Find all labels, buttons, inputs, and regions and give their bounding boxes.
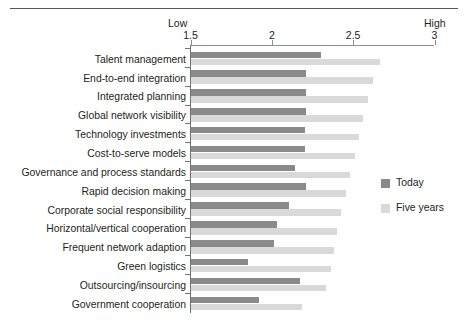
category-label: End-to-end integration — [83, 74, 186, 84]
y-tick-mark — [185, 180, 190, 181]
bar-today — [191, 52, 321, 59]
category-label: Green logistics — [117, 262, 186, 272]
bar-today — [191, 108, 306, 115]
y-tick-mark — [185, 237, 190, 238]
bar-today — [191, 146, 305, 153]
category-label: Outsourcing/insourcing — [80, 281, 186, 291]
legend-label: Today — [396, 178, 424, 188]
y-tick-mark — [185, 67, 190, 68]
bar-today — [191, 183, 306, 190]
bar-five-years — [191, 153, 355, 160]
legend-swatch-icon — [381, 179, 390, 188]
y-tick-mark — [185, 123, 190, 124]
bar-today — [191, 297, 259, 304]
bar-today — [191, 259, 248, 266]
y-tick-mark — [185, 86, 190, 87]
category-label: Talent management — [95, 55, 186, 65]
y-tick-mark — [185, 161, 190, 162]
bar-five-years — [191, 190, 346, 197]
y-axis-line — [190, 45, 191, 313]
axis-high-label: High — [424, 17, 446, 29]
y-tick-mark — [185, 199, 190, 200]
horizontal-bar-chart: Low High 1.522.53 Talent managementEnd-t… — [0, 0, 468, 325]
y-tick-mark — [185, 48, 190, 49]
x-tick-mark — [435, 40, 436, 45]
category-label: Integrated planning — [97, 92, 186, 102]
bar-today — [191, 89, 306, 96]
bar-today — [191, 221, 277, 228]
y-tick-mark — [185, 142, 190, 143]
bar-five-years — [191, 304, 302, 311]
bar-today — [191, 202, 289, 209]
bar-five-years — [191, 96, 368, 103]
category-label: Rapid decision making — [81, 187, 186, 197]
category-label: Technology investments — [75, 130, 186, 140]
category-label: Frequent network adaption — [62, 243, 186, 253]
category-label: Government cooperation — [72, 300, 186, 310]
legend-item[interactable]: Five years — [381, 203, 444, 213]
legend-item[interactable]: Today — [381, 178, 424, 188]
y-tick-mark — [185, 255, 190, 256]
bar-today — [191, 127, 305, 134]
y-tick-mark — [185, 218, 190, 219]
bar-five-years — [191, 172, 350, 179]
bar-five-years — [191, 228, 337, 235]
category-label: Horizontal/vertical cooperation — [46, 224, 186, 234]
legend-label: Five years — [396, 203, 444, 213]
bar-today — [191, 165, 295, 172]
bar-five-years — [191, 209, 341, 216]
bar-five-years — [191, 59, 380, 66]
category-label: Governance and process standards — [21, 168, 186, 178]
x-axis-line — [190, 45, 434, 46]
bar-today — [191, 278, 300, 285]
category-label: Global network visibility — [78, 111, 186, 121]
bar-five-years — [191, 266, 331, 273]
bar-today — [191, 240, 274, 247]
y-tick-mark — [185, 293, 190, 294]
bar-today — [191, 70, 306, 77]
y-tick-mark — [185, 274, 190, 275]
y-tick-mark — [185, 105, 190, 106]
category-label: Cost-to-serve models — [87, 149, 186, 159]
legend-swatch-icon — [381, 204, 390, 213]
category-label: Corporate social responsibility — [47, 206, 186, 216]
bar-five-years — [191, 77, 373, 84]
bar-five-years — [191, 285, 326, 292]
bar-five-years — [191, 134, 359, 141]
axis-low-label: Low — [168, 17, 187, 29]
bar-five-years — [191, 115, 363, 122]
bar-five-years — [191, 247, 334, 254]
top-divider-rule — [10, 8, 458, 9]
